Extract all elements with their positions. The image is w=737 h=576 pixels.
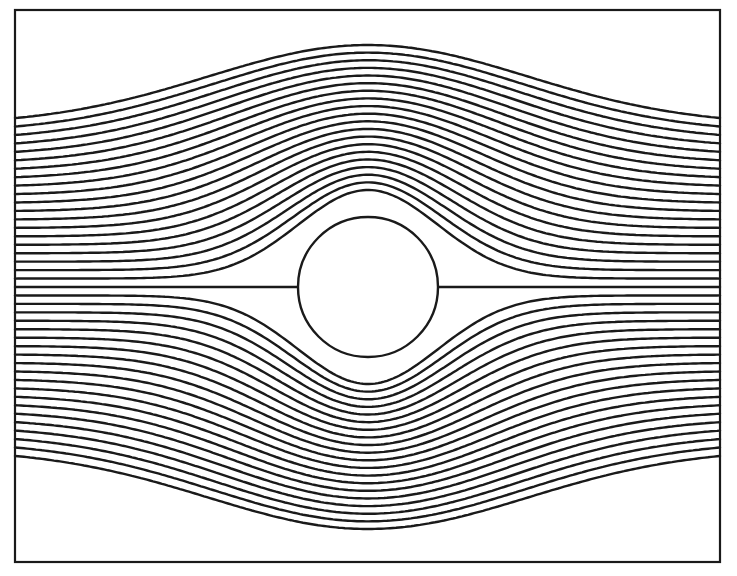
cylinder-obstacle	[298, 217, 438, 357]
streamline-lower-19	[15, 448, 720, 522]
streamline-lower-8	[15, 355, 720, 438]
streamline-upper-9	[15, 129, 720, 211]
streamline-lower-9	[15, 363, 720, 445]
diagram-canvas	[0, 0, 737, 576]
streamline-upper-19	[15, 53, 720, 127]
streamline-diagram	[0, 0, 737, 576]
streamline-upper-8	[15, 137, 720, 220]
